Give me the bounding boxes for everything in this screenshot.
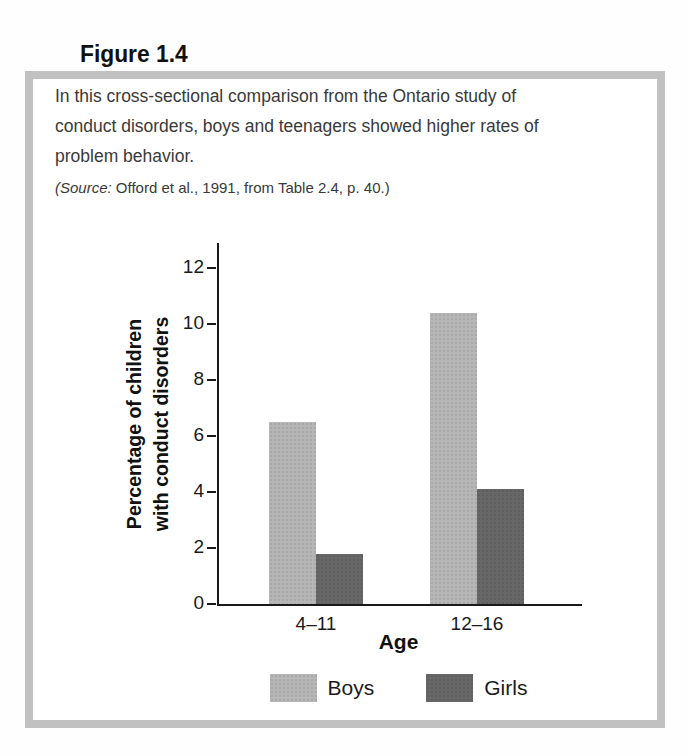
y-tick-label: 8 (156, 368, 204, 390)
y-tick-mark (207, 491, 216, 493)
figure-source: (Source: Offord et al., 1991, from Table… (55, 179, 390, 196)
figure-box: In this cross-sectional comparison from … (25, 71, 665, 728)
x-axis-title: Age (217, 630, 580, 654)
y-tick-label: 6 (156, 424, 204, 446)
legend-swatch-boys (270, 674, 317, 702)
figure-number-heading: Figure 1.4 (80, 40, 188, 68)
legend-item-boys: Boys (270, 674, 375, 702)
y-tick-label: 12 (156, 256, 204, 278)
y-tick-mark (207, 435, 216, 437)
y-tick-label: 10 (156, 312, 204, 334)
bar-boys-4–11 (269, 422, 316, 604)
bar-boys-12–16 (430, 313, 477, 604)
page: Figure 1.4 In this cross-sectional compa… (0, 0, 688, 756)
y-tick-mark (207, 547, 216, 549)
source-label: (Source: (55, 179, 112, 196)
legend-swatch-girls (426, 674, 473, 702)
y-tick-mark (207, 267, 216, 269)
source-citation: Offord et al., 1991, from Table 2.4, p. … (112, 179, 390, 196)
y-tick-mark (207, 379, 216, 381)
figure-box-inner: In this cross-sectional comparison from … (33, 79, 657, 720)
y-tick-label: 4 (156, 480, 204, 502)
y-tick-label: 0 (156, 592, 204, 614)
y-tick-mark (207, 603, 216, 605)
figure-caption: In this cross-sectional comparison from … (55, 81, 571, 171)
legend-label-girls: Girls (484, 676, 527, 700)
y-tick-mark (207, 323, 216, 325)
bar-girls-12–16 (477, 489, 524, 604)
bar-girls-4–11 (316, 554, 363, 604)
plot-area: 0246810124–1112–16 (217, 243, 582, 606)
legend-label-boys: Boys (328, 676, 375, 700)
y-tick-label: 2 (156, 536, 204, 558)
legend: BoysGirls (217, 674, 580, 702)
y-axis-title-line1: Percentage of children (123, 319, 145, 529)
legend-item-girls: Girls (426, 674, 527, 702)
